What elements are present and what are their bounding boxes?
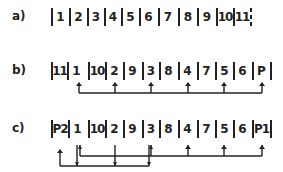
connection-diagram: [0, 0, 283, 172]
row-c-upper-connections: [78, 145, 265, 156]
row-b-connections: [76, 82, 265, 93]
